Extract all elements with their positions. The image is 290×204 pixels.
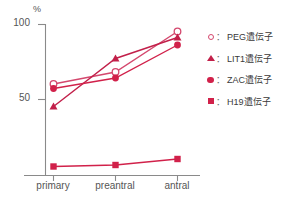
legend-item-peg: ： PEG遺伝子 xyxy=(206,26,290,48)
data-point xyxy=(112,162,118,168)
data-point xyxy=(174,156,180,162)
legend-label-lit1: LIT1遺伝子 xyxy=(227,52,272,65)
data-point xyxy=(50,85,57,92)
legend-separator: ： xyxy=(216,95,225,108)
data-point xyxy=(50,163,56,169)
legend-item-lit1: ： LIT1遺伝子 xyxy=(206,48,290,70)
legend-label-zac: ZAC遺伝子 xyxy=(227,73,272,86)
series-line-2 xyxy=(54,45,178,89)
legend-item-h19: ： H19遺伝子 xyxy=(206,91,290,113)
triangle-filled-icon xyxy=(206,53,215,64)
circle-filled-icon xyxy=(206,74,215,85)
chart-container: % 100 50 primary preantral antral ： PEG遺… xyxy=(0,0,290,204)
data-point xyxy=(112,69,119,76)
data-point xyxy=(174,42,181,49)
circle-open-icon xyxy=(206,31,215,42)
legend: ： PEG遺伝子 ： LIT1遺伝子 ： ZAC遺伝子 ： H19遺伝子 xyxy=(206,26,290,112)
legend-separator: ： xyxy=(216,73,225,86)
legend-separator: ： xyxy=(216,52,225,65)
legend-label-peg: PEG遺伝子 xyxy=(227,30,273,43)
series-layer xyxy=(50,28,182,170)
legend-separator: ： xyxy=(216,30,225,43)
data-point xyxy=(112,75,119,82)
legend-item-zac: ： ZAC遺伝子 xyxy=(206,69,290,91)
legend-label-h19: H19遺伝子 xyxy=(227,95,271,108)
square-filled-icon xyxy=(206,96,215,107)
data-point xyxy=(174,34,182,41)
